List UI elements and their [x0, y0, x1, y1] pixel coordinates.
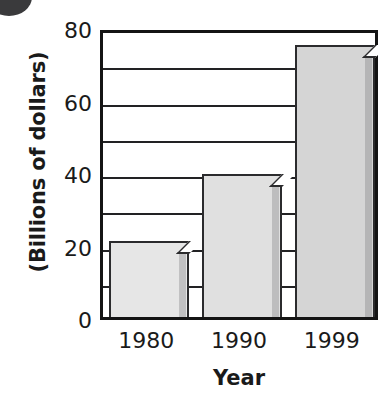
plot-area — [100, 30, 378, 320]
y-tick-label: 60 — [40, 90, 92, 115]
bar-shadow — [365, 56, 372, 317]
y-tick-label: 20 — [40, 235, 92, 260]
y-tick-label: 80 — [40, 18, 92, 43]
bar — [202, 174, 282, 317]
bar-bevel-corner — [176, 241, 202, 254]
bar-shadow — [272, 185, 279, 317]
corner-circle-icon — [0, 0, 32, 16]
bar — [109, 241, 189, 317]
x-tick-label: 1999 — [304, 328, 360, 353]
x-axis-title: Year — [100, 366, 378, 390]
y-tick-label: 0 — [40, 308, 92, 333]
y-tick-label: 40 — [40, 163, 92, 188]
x-tick-label: 1990 — [211, 328, 267, 353]
bar-chart-figure: (Billions of dollars) 020406080 19801990… — [0, 0, 386, 417]
bars — [103, 33, 375, 317]
x-axis-tick-labels: 198019901999 — [100, 328, 378, 360]
bar — [295, 45, 375, 317]
bar-bevel-corner — [362, 45, 386, 58]
bar-shadow — [179, 252, 186, 317]
bar-bevel-corner — [269, 174, 295, 187]
y-axis-tick-labels: 020406080 — [36, 30, 92, 320]
x-tick-label: 1980 — [118, 328, 174, 353]
